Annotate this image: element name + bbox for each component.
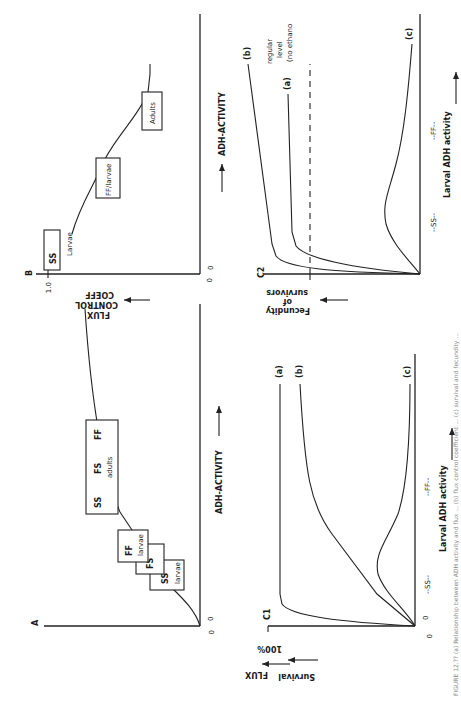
panel-c1: C1 100% 0 0 Survival (a) (b) (c) --SS-- … (257, 354, 452, 681)
panel-c2-label-c: (c) (405, 28, 414, 40)
panel-c2-ref-label-1: regular (266, 39, 274, 64)
panel-b-box3-label: Adults (149, 102, 157, 124)
panel-a-box1-sub: larvae (174, 562, 182, 584)
panel-b-ylabel-3: COEFF (85, 290, 114, 299)
panel-b-tick-1-label: 1.0 (45, 282, 53, 293)
panel-b-letter: B (25, 270, 34, 276)
panel-a-x-zero: 0 (207, 617, 215, 621)
panel-c1-ff-region: --FF-- (424, 477, 432, 496)
panel-c1-label-a: (a) (275, 365, 284, 378)
panel-c2-curve-c (385, 44, 420, 274)
panel-c2-ylabel-2: of (283, 297, 292, 306)
figure-caption: FIGURE 12.?? (a) Relationship between AD… (452, 333, 460, 696)
panel-a-ylabel: FLUX (244, 670, 268, 679)
panel-c1-y-zero: 0 (426, 634, 434, 638)
panel-a-xlabel: ADH-ACTIVITY (215, 450, 224, 514)
panel-c1-ss-region: --SS-- (424, 575, 432, 594)
figure-svg: A 0 0 FLUX SS larvae FS FF larvae SS FS … (0, 0, 461, 704)
panel-b-ylabel-2: CONTROL (75, 300, 118, 309)
panel-b: B 1.0 0 0 FLUX CONTROL COEFF SS Larvae F… (25, 14, 227, 319)
panel-b-box2-label: FF/larvae (105, 164, 113, 196)
panel-a-box3-sub: larvae (137, 534, 145, 556)
panel-c2-ylabel-3: survivors (266, 288, 308, 297)
panel-b-box-ss (44, 230, 60, 270)
panel-c1-label-b: (b) (295, 365, 304, 378)
panel-b-coeff-curve (72, 64, 150, 234)
panel-a-box3-label: FF (125, 545, 134, 556)
panel-b-box1-side: Larvae (66, 232, 74, 256)
panel-c2-ss-region: --SS-- (430, 213, 438, 232)
panel-c2-label-b: (b) (243, 47, 252, 60)
panel-c2-letter: C2 (257, 267, 266, 278)
panel-c1-curve-a (280, 384, 415, 626)
panel-c2-ylabel-1: Fecundity (265, 306, 310, 315)
panel-b-ylabel-1: FLUX (86, 310, 110, 319)
panel-c2-ref-label-3: (no ethano (286, 24, 294, 62)
panel-b-box1-label: SS (49, 253, 58, 264)
panel-a-letter: A (31, 619, 40, 626)
panel-c2-ref-label-2: level (276, 41, 284, 58)
panel-c1-x-zero: 0 (422, 616, 430, 620)
panel-c1-tick-100-label: 100% (257, 644, 282, 653)
panel-c1-ylabel: Survival (278, 672, 315, 681)
panel-a-box4-sub: adults (106, 456, 114, 478)
panel-c2-ff-region: --FF-- (430, 121, 438, 140)
panel-b-x-zero: 0 (207, 266, 215, 270)
panel-c2-label-a: (a) (283, 77, 292, 90)
panel-c1-letter: C1 (263, 608, 272, 620)
figure-rotated-stage: A 0 0 FLUX SS larvae FS FF larvae SS FS … (0, 0, 461, 704)
panel-a-box4-ff: FF (94, 429, 103, 440)
panel-a-box4-ss: SS (94, 497, 103, 508)
panel-a: A 0 0 FLUX SS larvae FS FF larvae SS FS … (31, 304, 290, 679)
panel-c2-xlabel: Larval ADH activity (443, 111, 452, 198)
panel-c1-label-c: (c) (403, 366, 412, 378)
panel-b-xlabel: ADH-ACTIVITY (218, 92, 227, 156)
panel-b-y-zero: 0 (206, 278, 214, 282)
panel-c1-curve-c (377, 384, 415, 626)
panel-a-y-zero: 0 (208, 630, 216, 634)
panel-c2-curve-a (288, 94, 420, 274)
panel-a-box4-fs: FS (94, 463, 103, 474)
panel-c1-xlabel: Larval ADH activity (439, 465, 448, 552)
panel-c1-curve-b (300, 384, 415, 626)
panel-c2: C2 Fecundity of survivors regular level … (243, 14, 456, 315)
